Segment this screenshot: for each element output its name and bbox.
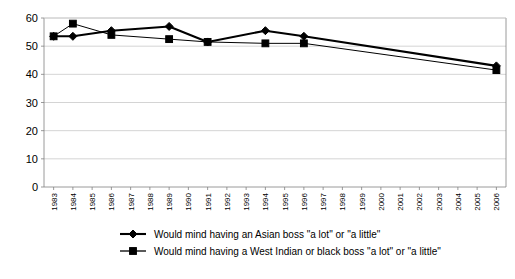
x-tick-label-2006: 2006 (492, 192, 501, 210)
legend-label-1: Would mind having a West Indian or black… (154, 246, 441, 257)
x-tick-label-1987: 1987 (127, 192, 136, 210)
x-tick-label-1989: 1989 (165, 192, 174, 210)
x-tick-label-1999: 1999 (358, 192, 367, 210)
data-point-square-1986 (108, 32, 115, 39)
x-tick-label-1986: 1986 (107, 192, 116, 210)
y-axis-tick-labels: 0102030405060 (26, 12, 38, 193)
x-tick-label-2002: 2002 (415, 192, 424, 210)
series-lines-group (54, 24, 497, 70)
data-point-square-1984 (69, 20, 76, 27)
chart-legend: Would mind having an Asian boss "a lot" … (120, 229, 441, 257)
y-tick-label: 40 (26, 68, 38, 80)
y-tick-label: 10 (26, 153, 38, 165)
y-tick-label: 50 (26, 40, 38, 52)
x-tick-label-2001: 2001 (396, 192, 405, 210)
y-tick-label: 60 (26, 12, 38, 24)
x-tick-label-2003: 2003 (435, 192, 444, 210)
x-tick-label-1991: 1991 (204, 192, 213, 210)
data-point-diamond-1994 (261, 27, 269, 35)
data-point-diamond-1984 (69, 32, 77, 40)
legend-diamond-marker-icon (129, 230, 137, 238)
x-tick-label-1983: 1983 (50, 192, 59, 210)
series-markers-group (50, 20, 501, 73)
x-axis-tick-labels: 1983198419851986198719881989199019911992… (50, 187, 502, 211)
legend-label-0: Would mind having an Asian boss "a lot" … (154, 229, 381, 240)
data-point-diamond-1989 (165, 22, 173, 30)
x-tick-label-1992: 1992 (223, 192, 232, 210)
y-tick-label: 0 (32, 181, 38, 193)
x-tick-label-1998: 1998 (338, 192, 347, 210)
line-chart: 0102030405060 19831984198519861987198819… (0, 0, 515, 279)
x-tick-label-1997: 1997 (319, 192, 328, 210)
data-point-diamond-1996 (300, 32, 308, 40)
data-point-square-2006 (493, 67, 500, 74)
x-tick-label-2000: 2000 (377, 192, 386, 210)
y-tick-label: 30 (26, 97, 38, 109)
legend-square-marker-icon (130, 248, 137, 255)
data-point-square-1991 (204, 39, 211, 46)
x-tick-label-1985: 1985 (88, 192, 97, 210)
x-tick-label-2004: 2004 (454, 192, 463, 210)
x-tick-label-1993: 1993 (242, 192, 251, 210)
data-point-square-1983 (50, 33, 57, 40)
x-tick-label-1994: 1994 (261, 192, 270, 210)
x-tick-label-2005: 2005 (473, 192, 482, 210)
data-point-square-1994 (262, 40, 269, 47)
y-tick-label: 20 (26, 125, 38, 137)
x-tick-label-1990: 1990 (184, 192, 193, 210)
chart-container: 0102030405060 19831984198519861987198819… (0, 0, 515, 279)
x-tick-label-1995: 1995 (281, 192, 290, 210)
x-tick-label-1984: 1984 (69, 192, 78, 210)
data-point-square-1989 (166, 36, 173, 43)
data-point-square-1996 (300, 40, 307, 47)
x-tick-label-1988: 1988 (146, 192, 155, 210)
x-tick-label-1996: 1996 (300, 192, 309, 210)
